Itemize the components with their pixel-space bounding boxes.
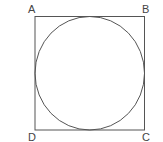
vertex-label-d: D (28, 131, 36, 142)
inscribed-circle (35, 17, 145, 131)
square-abcd (35, 17, 145, 131)
vertex-label-c: C (142, 131, 150, 142)
inscribed-circle-diagram: A B C D (0, 0, 163, 142)
vertex-label-a: A (28, 3, 36, 15)
vertex-label-b: B (142, 3, 149, 15)
